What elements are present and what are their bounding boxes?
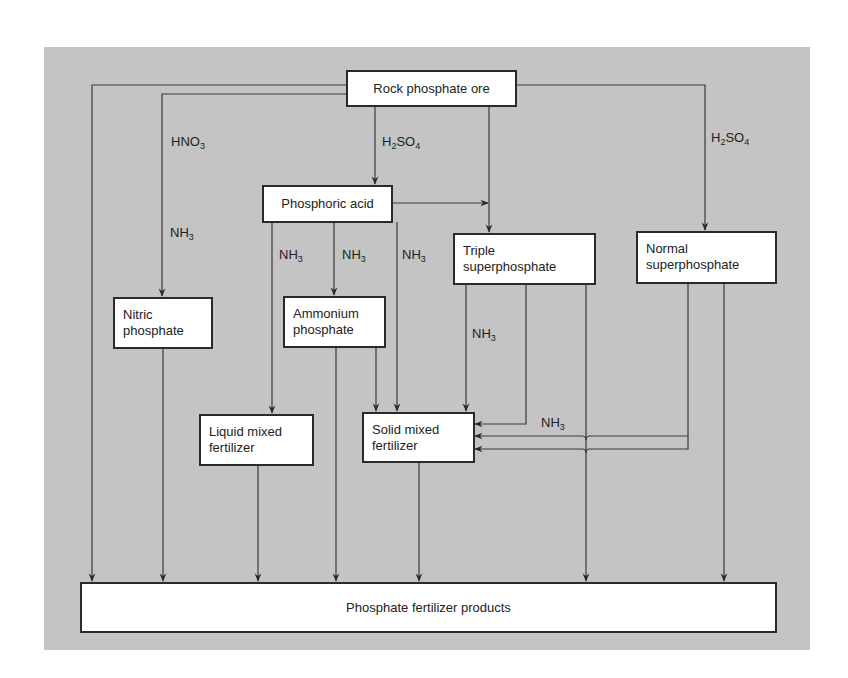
edge-rock-normal [516, 85, 705, 230]
node-label-line1: Liquid mixed [209, 424, 304, 440]
node-label: Phosphoric acid [281, 196, 374, 212]
label-h2so4-right: H2SO4 [711, 130, 749, 147]
label-nh3-solid: NH3 [402, 247, 426, 264]
node-rock-phosphate-ore: Rock phosphate ore [346, 70, 517, 107]
node-label-line1: Ammonium [293, 306, 376, 322]
node-triple-superphosphate: Triple superphosphate [453, 233, 596, 285]
edge-normal-solid-nh3 [475, 283, 688, 440]
node-label-line2: superphosphate [646, 257, 767, 273]
node-label-line2: phosphate [123, 323, 203, 339]
label-hno3: HNO3 [171, 134, 205, 151]
node-phosphate-fertilizer-products: Phosphate fertilizer products [80, 582, 777, 633]
label-nh3-triple: NH3 [472, 326, 496, 343]
label-nh3-ammonium: NH3 [342, 247, 366, 264]
label-h2so4-center: H2SO4 [382, 134, 420, 151]
node-label-line1: Triple [463, 243, 586, 259]
node-ammonium-phosphate: Ammonium phosphate [283, 296, 386, 348]
node-label-line2: fertilizer [209, 440, 304, 456]
label-nh3-nitric: NH3 [170, 225, 194, 242]
node-normal-superphosphate: Normal superphosphate [636, 231, 777, 284]
label-nh3-normal: NH3 [541, 415, 565, 432]
node-label-line2: phosphate [293, 322, 376, 338]
node-label: Rock phosphate ore [373, 81, 489, 97]
node-label-line1: Normal [646, 241, 767, 257]
node-label-line2: superphosphate [463, 259, 586, 275]
node-solid-mixed-fertilizer: Solid mixed fertilizer [362, 412, 475, 463]
node-label-line1: Solid mixed [372, 422, 465, 438]
node-liquid-mixed-fertilizer: Liquid mixed fertilizer [199, 414, 314, 466]
edge-normal-solid [475, 436, 688, 453]
node-label-line2: fertilizer [372, 438, 465, 454]
node-nitric-phosphate: Nitric phosphate [113, 297, 213, 349]
edge-triple-solid [475, 284, 526, 424]
label-nh3-liquid: NH3 [279, 247, 303, 264]
node-phosphoric-acid: Phosphoric acid [262, 185, 393, 223]
node-label-line1: Nitric [123, 307, 203, 323]
node-label: Phosphate fertilizer products [346, 600, 511, 616]
